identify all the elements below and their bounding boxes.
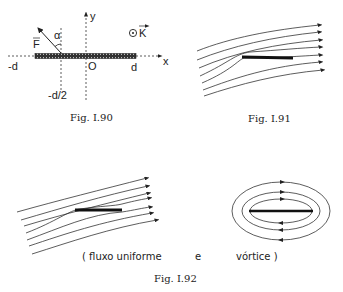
x-axis-label: x [163,55,169,67]
streamline [32,220,157,254]
force-label: F [33,38,40,50]
fig-i91-diagram [197,25,323,96]
fig-i92-uniform-flow [17,178,157,254]
k-vector-label: K [139,27,147,39]
figure-canvas: F α y x O -d d -d/2 K Fig. I.90 Fig. I.9… [0,0,343,292]
streamline [29,213,152,246]
streamline [27,207,151,240]
arrow-icon [280,197,285,201]
charged-plate [35,54,136,59]
angle-label: α [54,29,61,41]
arrow-icon [278,221,283,225]
angle-arc [55,44,61,47]
arrow-icon [280,180,285,184]
minus-d-label: -d [8,60,18,72]
fig-i90-diagram: F α y x O -d d -d/2 K Fig. I.90 [8,10,169,123]
streamline [21,186,148,220]
y-axis-label: y [90,10,96,22]
arrow-icon [278,238,283,242]
plus-d-label: d [131,61,137,73]
streamline [202,55,321,83]
streamline [197,25,320,51]
arrow-icon [278,228,283,232]
streamline [203,62,321,90]
origin-label: O [88,60,97,72]
streamline [17,178,147,212]
flat-plate [242,57,293,58]
fig-i91-caption: Fig. I.91 [248,113,291,124]
fig-i92-caption: Fig. I.92 [154,273,197,284]
fig-i92-text-uniform: ( fluxo uniforme [82,251,162,262]
fig-i90-caption: Fig. I.90 [70,112,113,123]
fig-i92-vortex [232,180,330,242]
minus-half-d-label: -d/2 [48,89,67,101]
arrow-icon [280,190,285,194]
fig-i92-text-vortex: vórtice ) [236,251,278,262]
out-of-page-dot [132,32,134,34]
fig-i92-text-and: e [195,251,201,262]
